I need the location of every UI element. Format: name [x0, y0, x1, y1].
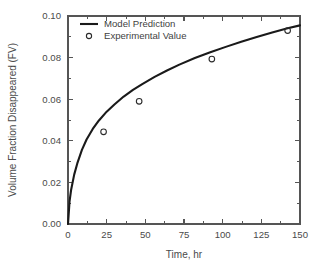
legend-circle-swatch [86, 33, 91, 38]
x-tick-label: 150 [292, 229, 308, 240]
x-tick-label: 125 [253, 229, 269, 240]
x-tick-label: 50 [140, 229, 151, 240]
y-tick-label: 0.02 [42, 177, 61, 188]
y-tick-label: 0.00 [42, 218, 61, 229]
axis-frame [68, 16, 300, 224]
x-tick-label: 75 [179, 229, 190, 240]
legend-label-model-prediction: Model Prediction [104, 18, 175, 29]
data-point-marker [209, 56, 215, 62]
x-tick-label: 0 [65, 229, 70, 240]
x-axis-ticks [68, 16, 300, 224]
series-experimental-value [101, 28, 291, 135]
x-axis-tick-labels: 0255075100125150 [65, 229, 308, 240]
data-point-marker [136, 98, 142, 104]
data-point-marker [101, 129, 107, 135]
y-tick-label: 0.04 [42, 135, 61, 146]
chart-legend: Model Prediction Experimental Value [80, 18, 186, 41]
x-tick-label: 25 [101, 229, 112, 240]
y-axis-title: Volume Fraction Disappeared (FV) [7, 43, 18, 197]
series-model-prediction [68, 25, 300, 224]
chart-figure: 0.000.020.040.060.080.10 025507510012515… [0, 0, 320, 272]
x-axis-title: Time, hr [166, 249, 203, 260]
y-tick-label: 0.08 [42, 52, 61, 63]
y-axis-tick-labels: 0.000.020.040.060.080.10 [42, 10, 61, 229]
y-axis-ticks [68, 16, 300, 224]
plot-border [68, 16, 300, 224]
y-tick-label: 0.06 [42, 94, 61, 105]
x-tick-label: 100 [215, 229, 231, 240]
x-axis-minor-ticks [87, 16, 280, 224]
legend-label-experimental-value: Experimental Value [104, 30, 186, 41]
chart-plot-area: 0.000.020.040.060.080.10 025507510012515… [0, 0, 320, 272]
y-tick-label: 0.10 [42, 10, 61, 21]
